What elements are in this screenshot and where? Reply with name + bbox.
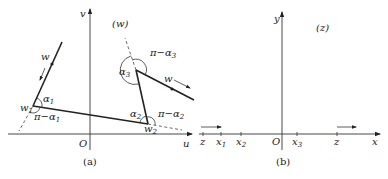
w-plane-label: (w) (112, 18, 128, 29)
direction-label-2: w (164, 73, 173, 84)
direction-label-1: w (41, 51, 50, 62)
angle-pi-minus-alpha2-label: π−α2 (157, 108, 185, 121)
extension-w3 (125, 38, 136, 70)
angle-pi-minus-alpha1-label: π−α1 (33, 111, 60, 124)
angle-alpha2-label: α2 (130, 108, 142, 121)
tick-label-x2: x2 (236, 136, 247, 149)
caption-b: (b) (276, 156, 290, 167)
tick-label-z-left: z (199, 136, 206, 147)
conformal-mapping-figure: u v O (a) (w) w w w1 α1 π−α1 w2 α2 π−α2 (0, 0, 388, 179)
angle-arc-pi-minus-alpha3 (132, 59, 146, 75)
angle-alpha3-label: α3 (119, 66, 131, 79)
z-plane-label: (z) (316, 22, 329, 33)
panel-a-w-plane: u v O (a) (w) w w w1 α1 π−α1 w2 α2 π−α2 (8, 8, 194, 167)
y-axis-label: y (273, 13, 280, 24)
x-axis-label: x (372, 136, 378, 147)
tick-label-z-right: z (333, 136, 340, 147)
u-axis-label: u (183, 138, 189, 149)
tick-label-x3: x3 (292, 136, 303, 149)
direction-dot-1 (50, 62, 53, 65)
origin-label-a: O (79, 138, 87, 149)
origin-label-b: O (272, 136, 280, 147)
v-axis-label: v (80, 8, 86, 19)
angle-alpha1-label: α1 (43, 93, 54, 106)
angle-pi-minus-alpha3-label: π−α3 (149, 47, 177, 60)
panel-b-z-plane: y x O (z) (b) z x1 x2 x3 z (199, 12, 380, 167)
caption-a: (a) (83, 156, 97, 167)
direction-arrow-1 (40, 68, 45, 80)
tick-label-x1: x1 (216, 136, 226, 149)
direction-arrow-2 (174, 80, 190, 88)
direction-dot-2 (170, 87, 173, 90)
